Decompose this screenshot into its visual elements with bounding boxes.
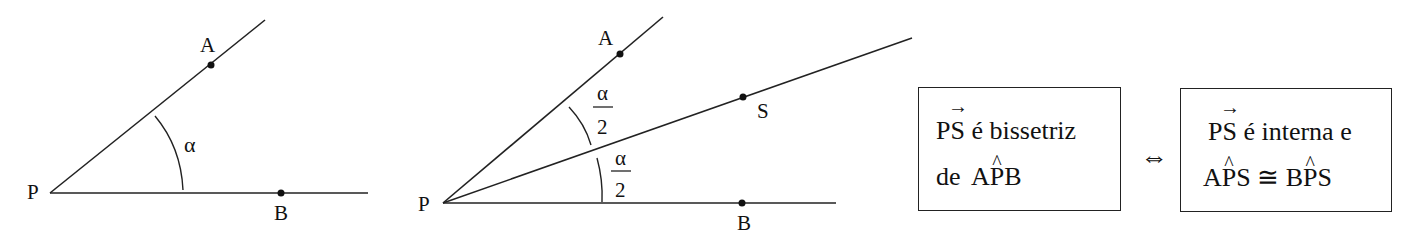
vector-arrow-icon: → [1220, 97, 1240, 117]
vertex-p-label: P [418, 192, 430, 216]
point-b-label: B [274, 201, 288, 225]
point-b-dot [278, 190, 285, 197]
angle-arc-alpha [155, 116, 183, 190]
vector-arrow-icon: → [948, 96, 968, 116]
figure-bisector: P A S B α 2 α 2 [418, 17, 912, 235]
equivalence-symbol: ⇔ [1140, 143, 1168, 171]
congruent-symbol: ≅ [1251, 163, 1286, 192]
upper-half-angle-fraction: α 2 [593, 81, 613, 139]
point-b-dot [739, 200, 746, 207]
point-a-dot [617, 51, 624, 58]
fraction-denominator: 2 [597, 115, 608, 139]
angle-bps: B^PS [1286, 163, 1332, 192]
angle-arc-upper [569, 107, 591, 145]
fraction-denominator: 2 [615, 178, 626, 202]
point-a-dot [208, 62, 215, 69]
point-s-dot [740, 94, 747, 101]
angle-aps: A^PS [1203, 163, 1251, 192]
fraction-numerator: α [615, 146, 626, 170]
definition-text: é bissetriz [965, 116, 1076, 145]
fraction-numerator: α [597, 81, 608, 105]
lower-half-angle-fraction: α 2 [611, 146, 631, 202]
angle-arc-lower [597, 158, 602, 202]
condition-text: é interna e [1237, 117, 1352, 146]
hat-icon: ^ [1224, 153, 1233, 173]
ray-ps [443, 38, 912, 203]
vertex-p-label: P [27, 180, 39, 204]
angle-apb: A^PB [971, 162, 1022, 191]
angle-alpha-label: α [184, 132, 196, 157]
ray-pa [50, 20, 265, 193]
hat-icon: ^ [992, 152, 1001, 172]
figure-angle-alpha: P A B α [27, 20, 368, 225]
hat-icon: ^ [1306, 153, 1315, 173]
point-a-label: A [200, 33, 216, 57]
ray-pa [443, 17, 663, 203]
box-line-1: →PS é interna e [1208, 119, 1352, 145]
definition-box-bisector: →PS é bissetriz de A^PB [918, 87, 1121, 211]
ray-ps-notation: →PS [1208, 119, 1237, 145]
box-line-2: de A^PB [936, 164, 1022, 190]
point-b-label: B [737, 211, 751, 235]
ray-ps-notation: →PS [936, 118, 965, 144]
box-line-2: A^PS ≅ B^PS [1203, 165, 1332, 191]
definition-box-condition: →PS é interna e A^PS ≅ B^PS [1180, 88, 1392, 212]
point-s-label: S [757, 99, 769, 123]
box-line-1: →PS é bissetriz [936, 118, 1076, 144]
point-a-label: A [598, 26, 614, 50]
